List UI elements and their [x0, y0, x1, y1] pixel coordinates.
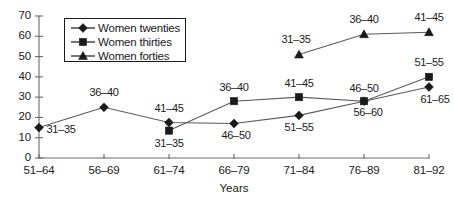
y-axis-tick-label: 70: [9, 10, 31, 22]
legend-marker-square-icon: [70, 36, 96, 48]
data-point-marker-square: [425, 73, 432, 80]
data-point-marker-square: [295, 94, 302, 101]
legend-marker-diamond-icon: [70, 22, 96, 34]
data-point-label: 61–65: [412, 94, 454, 105]
data-point-marker-diamond: [230, 119, 239, 128]
x-axis-tick-label: 71–84: [269, 165, 329, 177]
data-point-marker-triangle: [425, 28, 434, 36]
x-axis-tick-label: 51–64: [9, 165, 69, 177]
y-axis-tick-label: 50: [9, 51, 31, 63]
data-point-label: 41–45: [276, 78, 322, 89]
legend-label: Women twenties: [98, 22, 180, 34]
y-axis-tick-label: 20: [9, 111, 31, 123]
legend-item-2: Women forties: [70, 49, 185, 62]
y-axis-tick-label: 0: [9, 152, 31, 164]
data-point-label: 31–35: [146, 138, 192, 149]
legend-item-1: Women thirties: [70, 35, 185, 48]
data-point-label: 36–40: [81, 87, 127, 98]
line-chart: 010203040506070 51–6456–6961–7466–7971–8…: [0, 0, 454, 198]
data-point-marker-diamond: [425, 83, 434, 92]
legend-label: Women forties: [98, 50, 169, 62]
data-point-marker-diamond: [100, 103, 109, 112]
data-point-label: 56–60: [345, 107, 391, 118]
x-axis-tick-label: 61–74: [139, 165, 199, 177]
y-axis-tick-label: 60: [9, 30, 31, 42]
data-point-marker-diamond: [295, 111, 304, 120]
y-axis-tick-label: 10: [9, 132, 31, 144]
y-axis-tick-label: 40: [9, 71, 31, 83]
data-point-label: 36–40: [341, 14, 387, 25]
data-point-marker-diamond: [165, 118, 174, 127]
x-axis-tick-label: 81–92: [399, 165, 454, 177]
data-point-label: 46–50: [213, 130, 259, 141]
legend: Women twentiesWomen thirtiesWomen fortie…: [64, 18, 186, 62]
data-point-label: 51–55: [276, 122, 322, 133]
data-point-marker-square: [165, 127, 172, 134]
x-axis-title: Years: [184, 183, 284, 195]
data-point-label: 31–35: [273, 34, 319, 45]
data-point-label: 41–45: [406, 12, 452, 23]
legend-label: Women thirties: [98, 36, 172, 48]
data-point-label: 36–40: [211, 82, 257, 93]
y-axis-tick-label: 30: [9, 91, 31, 103]
x-axis-tick-label: 56–69: [74, 165, 134, 177]
legend-marker-triangle-icon: [70, 50, 96, 62]
legend-item-0: Women twenties: [70, 21, 185, 34]
data-point-label: 46–50: [341, 83, 387, 94]
x-axis-tick-label: 76–89: [334, 165, 394, 177]
data-point-marker-square: [79, 38, 86, 45]
data-point-marker-square: [360, 98, 367, 105]
data-point-label: 41–45: [146, 103, 192, 114]
data-point-marker-diamond: [79, 23, 88, 32]
data-point-label: 31–35: [38, 124, 84, 135]
data-point-label: 51–55: [406, 57, 452, 68]
data-point-marker-square: [230, 98, 237, 105]
x-axis-tick-label: 66–79: [204, 165, 264, 177]
